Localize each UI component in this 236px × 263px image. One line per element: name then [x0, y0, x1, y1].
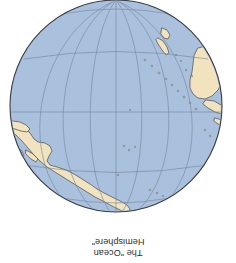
island-speck: [195, 108, 197, 110]
island-speck: [183, 96, 185, 98]
island-speck: [117, 174, 119, 176]
island-speck: [165, 78, 167, 80]
land-philippines: [221, 128, 230, 138]
caption-line-2: Hemisphere": [0, 237, 236, 248]
island-speck: [149, 189, 151, 191]
island-speck: [128, 149, 130, 151]
island-speck: [171, 84, 173, 86]
globe-map: [0, 0, 236, 263]
island-speck: [162, 195, 163, 196]
island-speck: [151, 65, 153, 67]
island-speck: [180, 60, 181, 61]
island-speck: [123, 145, 125, 147]
island-speck: [177, 90, 179, 92]
island-speck: [144, 59, 146, 61]
island-speck: [156, 192, 158, 194]
island-speck: [204, 129, 206, 131]
island-speck: [129, 109, 131, 111]
island-speck: [134, 146, 135, 147]
land-tasmania: [205, 37, 214, 44]
land-japan-fragment: [226, 90, 236, 99]
island-speck: [185, 69, 187, 71]
island-speck: [191, 75, 193, 77]
island-speck: [158, 72, 160, 74]
ocean-hemisphere-figure: The "Ocean Hemisphere": [0, 0, 236, 263]
figure-caption: The "Ocean Hemisphere": [0, 237, 236, 258]
caption-line-1: The "Ocean: [0, 248, 236, 259]
island-speck: [209, 135, 211, 137]
